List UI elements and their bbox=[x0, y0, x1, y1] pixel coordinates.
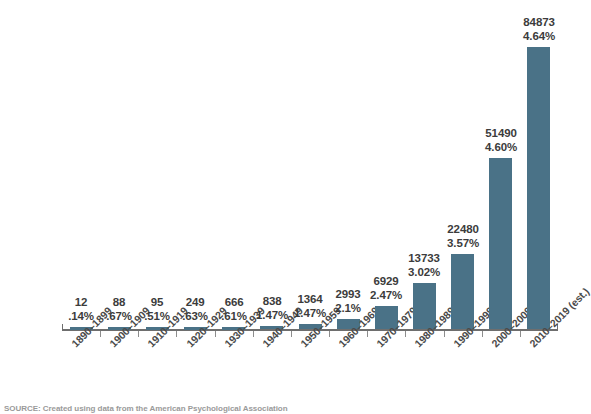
bar-count-value: 51490 bbox=[475, 126, 527, 140]
bar-percent-value: 2.47% bbox=[360, 288, 412, 302]
x-axis-tick bbox=[176, 331, 177, 337]
x-axis-tick bbox=[405, 331, 406, 337]
bar-value-label: 514904.60% bbox=[475, 126, 527, 154]
bar-value-label: 848734.64% bbox=[513, 15, 565, 43]
source-note: SOURCE: Created using data from the Amer… bbox=[4, 404, 288, 413]
x-axis-tick bbox=[138, 331, 139, 337]
bar-percent-value: 4.64% bbox=[513, 29, 565, 43]
x-axis-tick bbox=[444, 331, 445, 337]
x-axis-tick bbox=[482, 331, 483, 337]
x-axis-tick bbox=[100, 331, 101, 337]
x-axis-tick bbox=[215, 331, 216, 337]
x-axis-tick bbox=[291, 331, 292, 337]
bar-percent-value: 3.02% bbox=[398, 265, 450, 279]
bar-count-value: 22480 bbox=[437, 222, 489, 236]
x-axis-tick bbox=[329, 331, 330, 337]
bar-percent-value: 3.57% bbox=[437, 236, 489, 250]
bar-value-label: 137333.02% bbox=[398, 251, 450, 279]
x-axis-tick bbox=[253, 331, 254, 337]
bar-value-label: 224803.57% bbox=[437, 222, 489, 250]
bar bbox=[451, 254, 474, 329]
bar bbox=[489, 158, 512, 329]
x-axis-tick bbox=[520, 331, 521, 337]
x-axis-tick bbox=[367, 331, 368, 337]
bar-percent-value: 4.60% bbox=[475, 140, 527, 154]
bar bbox=[527, 47, 550, 329]
bar-count-value: 84873 bbox=[513, 15, 565, 29]
bar-count-value: 13733 bbox=[398, 251, 450, 265]
